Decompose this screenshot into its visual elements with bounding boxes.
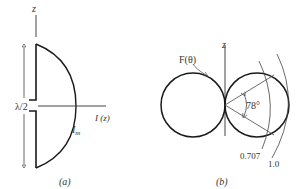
max-level-arc	[272, 54, 288, 158]
panel-a: z I (z) Im λ/2 (a)	[15, 3, 110, 188]
z-axis-label-a: z	[31, 3, 36, 14]
dipole-lower-arm	[29, 111, 36, 168]
current-axis-label: I (z)	[94, 113, 110, 123]
half-power-level-label: 0.707	[240, 151, 261, 161]
dipole-figure: z I (z) Im λ/2 (a) z F(θ)	[0, 0, 299, 189]
z-axis-label-b: z	[221, 39, 226, 50]
beamwidth-angle-label: 78°	[246, 100, 260, 111]
max-level-label: 1.0	[268, 159, 280, 169]
half-wavelength-label: λ/2	[15, 101, 28, 112]
pattern-lobe-left	[161, 73, 225, 137]
caption-b: (b)	[216, 176, 228, 188]
caption-a: (a)	[59, 176, 71, 188]
dipole-upper-arm	[29, 44, 36, 100]
panel-b: z F(θ) 78° 0.707 1.0 (b)	[161, 39, 289, 188]
peak-current-label: Im	[71, 124, 80, 137]
